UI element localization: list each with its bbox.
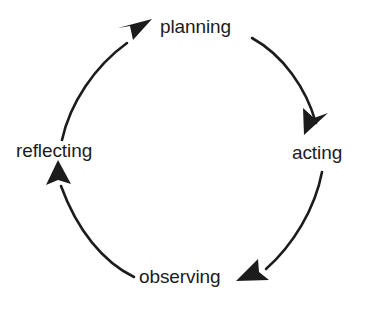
cycle-diagram: planning acting observing reflecting <box>0 0 368 310</box>
arrow-path-reflecting-to-planning <box>62 43 127 140</box>
arrow-path-planning-to-acting <box>252 38 316 123</box>
arrow-path-acting-to-observing <box>266 172 322 269</box>
node-label-observing: observing <box>139 267 220 287</box>
arrowhead-reflecting-icon <box>46 160 71 185</box>
arrowhead-planning-icon <box>118 19 152 40</box>
arrow-path-observing-to-reflecting <box>61 186 134 277</box>
node-label-reflecting: reflecting <box>16 141 92 161</box>
arrowhead-observing-icon <box>236 259 269 281</box>
node-label-acting: acting <box>292 143 342 163</box>
arrowhead-acting-icon <box>303 108 328 135</box>
node-label-planning: planning <box>160 17 231 37</box>
